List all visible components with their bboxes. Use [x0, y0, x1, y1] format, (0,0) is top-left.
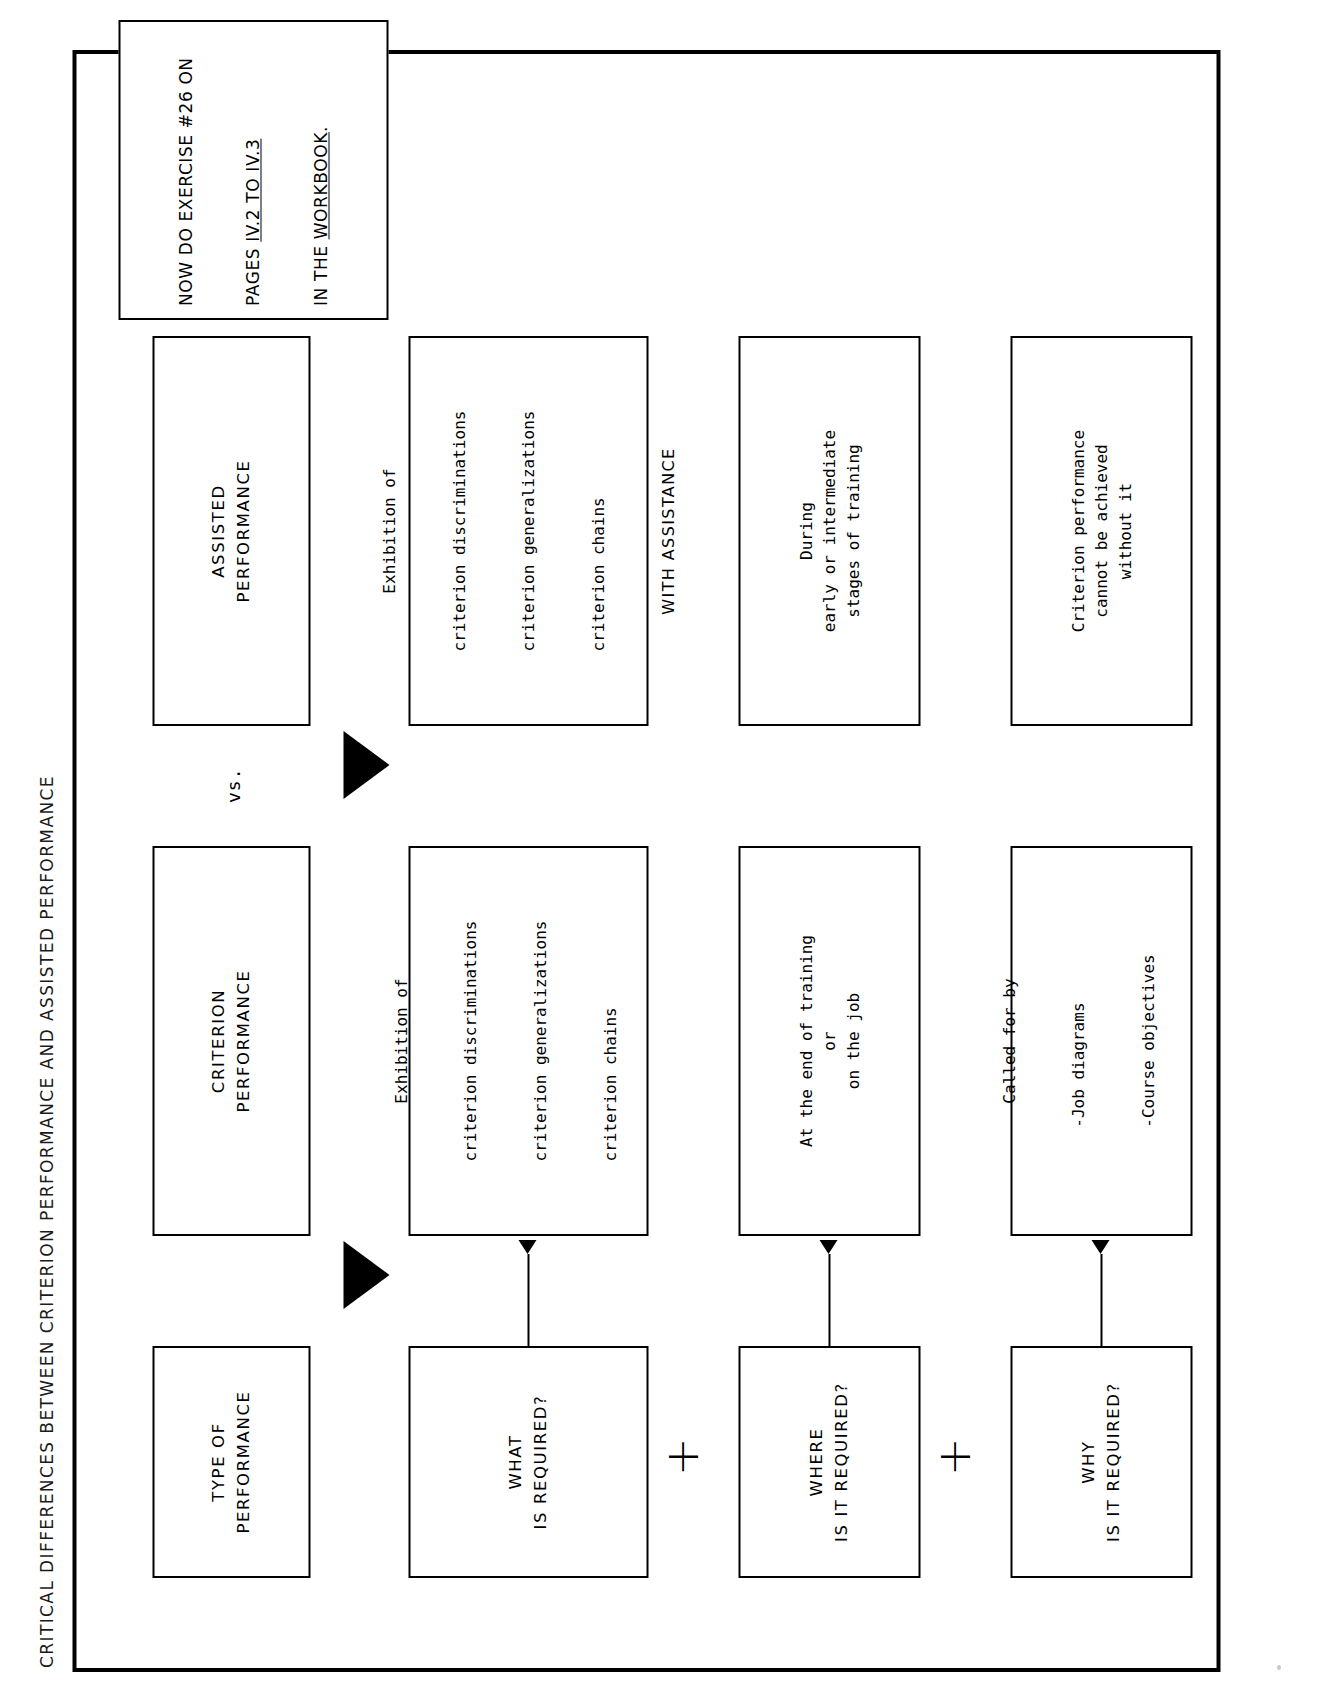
question-box-where: WHERE IS IT REQUIRED?	[738, 1346, 920, 1578]
criterion-cell-where: At the end of training or on the job	[738, 846, 920, 1236]
criterion-cell-why-item-1: -Job diagrams	[1066, 954, 1089, 1127]
assisted-cell-why-item-1: cannot be achieved	[1089, 444, 1112, 617]
page-title: CRITICAL DIFFERENCES BETWEEN CRITERION P…	[36, 775, 56, 1668]
assisted-cell-why-item-2: without it	[1113, 483, 1136, 579]
header-type-of-performance: TYPE OF PERFORMANCE	[152, 1346, 310, 1578]
assisted-cell-why: Criterion performance cannot be achieved…	[1010, 336, 1192, 726]
assisted-cell-where: During early or intermediate stages of t…	[738, 336, 920, 726]
criterion-flow-triangle-icon	[343, 731, 389, 799]
header-criterion-performance-line2: PERFORMANCE	[231, 969, 256, 1112]
exercise-note-line3-prefix: IN THE	[310, 239, 330, 306]
question-box-what: WHAT IS REQUIRED?	[408, 1346, 648, 1578]
assisted-cell-where-item-1: early or intermediate	[817, 430, 840, 632]
connector-line-what	[527, 1254, 529, 1346]
header-assisted-performance: ASSISTED PERFORMANCE	[152, 336, 310, 726]
assisted-cell-where-lead: During	[794, 502, 817, 560]
exercise-note-line3-workbook: WORKBOOK	[310, 132, 330, 239]
assisted-cell-what-lead: Exhibition of	[377, 468, 400, 593]
criterion-cell-where-item-1: or	[817, 1031, 840, 1050]
connector-line-where	[828, 1254, 830, 1346]
plus-sign-2: +	[930, 1437, 976, 1476]
header-assisted-performance-line1: ASSISTED	[206, 484, 231, 578]
question-box-what-line2: IS REQUIRED?	[528, 1395, 553, 1530]
assisted-cell-what: Exhibition of criterion discriminations …	[408, 336, 648, 726]
criterion-cell-what-lead: Exhibition of	[389, 978, 412, 1103]
header-type-of-performance-line2: PERFORMANCE	[231, 1390, 256, 1533]
assisted-cell-where-item-2: stages of training	[841, 444, 864, 617]
exercise-note-line2: PAGES IV.2 TO IV.3	[241, 34, 263, 306]
header-criterion-performance: CRITERION PERFORMANCE	[152, 846, 310, 1236]
header-type-of-performance-line1: TYPE OF	[206, 1422, 231, 1501]
document-sheet: CRITICAL DIFFERENCES BETWEEN CRITERION P…	[0, 0, 1333, 1708]
connector-arrow-where	[819, 1240, 837, 1254]
criterion-cell-what-item-3: criterion chains	[598, 921, 621, 1162]
assisted-cell-what-footer: WITH ASSISTANCE	[656, 447, 679, 614]
header-assisted-performance-line2: PERFORMANCE	[231, 459, 256, 602]
criterion-cell-why: Called for by -Job diagrams -Course obje…	[1010, 846, 1192, 1236]
exercise-note-line3-suffix: .	[310, 126, 330, 132]
scan-speck	[1277, 1665, 1281, 1670]
criterion-cell-why-item-2: -Course objectives	[1136, 954, 1159, 1127]
exercise-note-box: NOW DO EXERCISE #26 ON PAGES IV.2 TO IV.…	[118, 20, 388, 320]
criterion-cell-what-item-2: criterion generalizations	[528, 921, 551, 1162]
assisted-cell-what-item-1: criterion discriminations	[447, 411, 470, 652]
exercise-note-line1: NOW DO EXERCISE #26 ON	[174, 34, 196, 306]
criterion-cell-what: Exhibition of criterion discriminations …	[408, 846, 648, 1236]
question-box-where-line1: WHERE	[804, 1427, 829, 1496]
header-criterion-performance-line1: CRITERION	[206, 989, 231, 1093]
question-box-why-line1: WHY	[1076, 1440, 1101, 1484]
connector-arrow-why	[1091, 1240, 1109, 1254]
criterion-cell-what-item-1: criterion discriminations	[458, 921, 481, 1162]
assisted-cell-what-item-3: criterion chains	[586, 411, 609, 652]
connector-arrow-what	[518, 1240, 536, 1254]
assisted-flow-triangle-icon	[343, 1241, 389, 1309]
question-box-why-line2: IS IT REQUIRED?	[1101, 1382, 1126, 1542]
plus-sign-1: +	[658, 1437, 704, 1476]
criterion-cell-why-lead: Called for by	[997, 978, 1020, 1103]
versus-label: vs.	[222, 767, 243, 803]
connector-line-why	[1100, 1254, 1102, 1346]
exercise-note-line2-pages: IV.2 TO IV.3	[242, 139, 262, 242]
assisted-cell-why-lead: Criterion performance	[1066, 430, 1089, 632]
question-box-what-line1: WHAT	[503, 1434, 528, 1489]
question-box-why: WHY IS IT REQUIRED?	[1010, 1346, 1192, 1578]
exercise-note-line2-prefix: PAGES	[242, 242, 262, 306]
criterion-cell-where-lead: At the end of training	[794, 935, 817, 1147]
exercise-note-line3: IN THE WORKBOOK.	[309, 34, 331, 306]
question-box-where-line2: IS IT REQUIRED?	[829, 1382, 854, 1542]
assisted-cell-what-item-2: criterion generalizations	[516, 411, 539, 652]
criterion-cell-where-item-2: on the job	[841, 993, 864, 1089]
